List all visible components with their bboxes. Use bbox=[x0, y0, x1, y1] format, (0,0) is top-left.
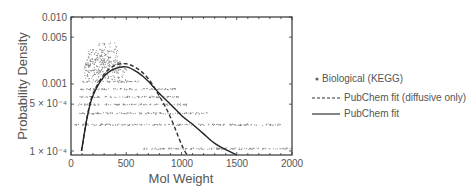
chart: 0.010 0.005 0.001 5 × 10⁻⁴ 1 × 10⁻⁴ 0 50… bbox=[0, 0, 470, 189]
curve-pubchem-fit bbox=[82, 67, 237, 155]
y-tick-label-5e-4: 5 × 10⁻⁴ bbox=[30, 98, 67, 109]
legend-dot-icon bbox=[315, 77, 318, 80]
x-tick-label-1500: 1500 bbox=[226, 158, 249, 169]
y-tick-label-0-001: 0.001 bbox=[42, 78, 67, 89]
x-axis-title: Mol Weight bbox=[149, 171, 214, 186]
x-tick-label-500: 500 bbox=[118, 158, 135, 169]
curve-pubchem-fit-diffusive-only bbox=[82, 64, 188, 155]
y-tick-label-1e-4: 1 × 10⁻⁴ bbox=[30, 146, 67, 157]
x-tick-label-1000: 1000 bbox=[171, 158, 194, 169]
legend-label-pubchem-fit-diffusive: PubChem fit (diffusive only) bbox=[344, 92, 466, 103]
scatter-points-biological-kegg bbox=[74, 43, 292, 150]
legend-label-pubchem-fit: PubChem fit bbox=[344, 108, 399, 119]
y-axis-title: Probability Density bbox=[15, 32, 30, 140]
x-tick-label-0: 0 bbox=[68, 158, 74, 169]
x-axis-ticks bbox=[71, 17, 292, 155]
legend: Biological (KEGG) PubChem fit (diffusive… bbox=[312, 73, 466, 119]
y-axis-ticks bbox=[71, 17, 292, 151]
plot-frame bbox=[71, 17, 292, 155]
y-tick-label-0-005: 0.005 bbox=[42, 32, 67, 43]
legend-label-biological-kegg: Biological (KEGG) bbox=[322, 73, 403, 84]
y-tick-label-0-010: 0.010 bbox=[42, 12, 67, 23]
x-tick-label-2000: 2000 bbox=[281, 158, 304, 169]
